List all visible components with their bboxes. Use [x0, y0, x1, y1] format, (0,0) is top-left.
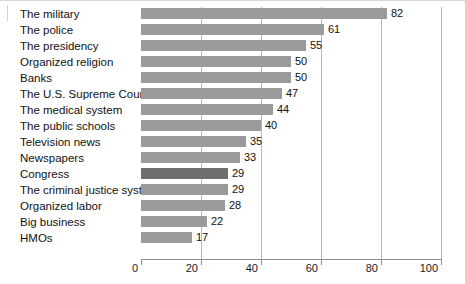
category-label: Newspapers: [20, 152, 84, 165]
x-tick-label-60: 60: [306, 262, 321, 275]
category-label: Television news: [20, 136, 101, 149]
bar-row: The medical system44: [0, 103, 465, 119]
bar-row: Big business22: [0, 215, 465, 231]
bar-value-label: 33: [244, 151, 256, 164]
bar-value-label: 28: [229, 199, 241, 212]
bar-value-label: 40: [265, 119, 277, 132]
category-label: HMOs: [20, 232, 53, 245]
x-tick-60: [321, 259, 322, 265]
bar: [141, 24, 324, 35]
bar-value-label: 61: [328, 23, 340, 36]
bar-row: The public schools40: [0, 119, 465, 135]
bar-row: Organized labor28: [0, 199, 465, 215]
bar-row: The U.S. Supreme Court47: [0, 87, 465, 103]
x-tick-0: [141, 259, 142, 265]
category-label: The public schools: [20, 120, 115, 133]
bar-row: Banks50: [0, 71, 465, 87]
category-label: Organized labor: [20, 200, 102, 213]
x-tick-label-20: 20: [186, 262, 201, 275]
bar: [141, 168, 228, 179]
bar: [141, 200, 225, 211]
bar-row: The criminal justice system29: [0, 183, 465, 199]
bar: [141, 88, 282, 99]
bar: [141, 216, 207, 227]
category-label: Banks: [20, 72, 52, 85]
x-tick-80: [381, 259, 382, 265]
bar-row: Organized religion50: [0, 55, 465, 71]
x-tick-40: [261, 259, 262, 265]
x-tick-100: [441, 259, 442, 265]
bar: [141, 184, 228, 195]
bar-row: Television news35: [0, 135, 465, 151]
category-label: The military: [20, 8, 79, 21]
bar-row: Congress29: [0, 167, 465, 183]
category-label: The U.S. Supreme Court: [20, 88, 147, 101]
category-label: Organized religion: [20, 56, 113, 69]
bar-value-label: 82: [391, 7, 403, 20]
bar: [141, 136, 246, 147]
bar-value-label: 29: [232, 183, 244, 196]
bar: [141, 56, 291, 67]
category-label: The presidency: [20, 40, 99, 53]
category-label: Big business: [20, 216, 85, 229]
category-label: Congress: [20, 168, 69, 181]
bar-row: The presidency55: [0, 39, 465, 55]
bar: [141, 8, 387, 19]
bar-row: HMOs17: [0, 231, 465, 247]
category-label: The medical system: [20, 104, 122, 117]
bar-value-label: 29: [232, 167, 244, 180]
category-label: The police: [20, 24, 73, 37]
bar-value-label: 17: [196, 231, 208, 244]
top-edge-rule: [0, 0, 465, 1]
bar: [141, 72, 291, 83]
bar-row: Newspapers33: [0, 151, 465, 167]
bar-row: The police61: [0, 23, 465, 39]
bar-value-label: 50: [295, 71, 307, 84]
bar-value-label: 50: [295, 55, 307, 68]
bar-value-label: 47: [286, 87, 298, 100]
x-tick-label-100: 100: [420, 262, 441, 275]
x-axis-line: [141, 259, 442, 260]
bar-chart: 020406080100 The military82The police61T…: [0, 0, 465, 284]
bar: [141, 152, 240, 163]
x-tick-label-0: 0: [132, 262, 141, 275]
bar-value-label: 55: [310, 39, 322, 52]
bar-value-label: 35: [250, 135, 262, 148]
x-tick-label-40: 40: [246, 262, 261, 275]
bar-row: The military82: [0, 7, 465, 23]
bar: [141, 104, 273, 115]
bar: [141, 40, 306, 51]
bar: [141, 120, 261, 131]
bar-value-label: 22: [211, 215, 223, 228]
x-tick-20: [201, 259, 202, 265]
bar-value-label: 44: [277, 103, 289, 116]
category-label: The criminal justice system: [20, 184, 158, 197]
x-tick-label-80: 80: [366, 262, 381, 275]
bar: [141, 232, 192, 243]
